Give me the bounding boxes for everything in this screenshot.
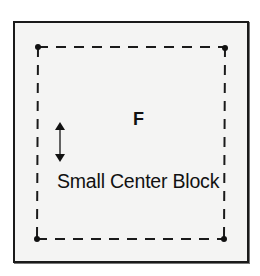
dashed-right-edge: [224, 47, 225, 239]
corner-handle-bottom-left[interactable]: [34, 236, 40, 242]
vertical-resize-arrow-icon: [55, 122, 65, 162]
frame-label: F: [133, 110, 144, 128]
dashed-left-edge: [37, 47, 38, 239]
corner-handle-top-left[interactable]: [35, 44, 41, 50]
block-label: Small Center Block: [57, 172, 219, 192]
corner-handle-bottom-right[interactable]: [221, 236, 227, 242]
corner-handle-top-right[interactable]: [222, 45, 228, 51]
dashed-bounds: [0, 0, 260, 276]
